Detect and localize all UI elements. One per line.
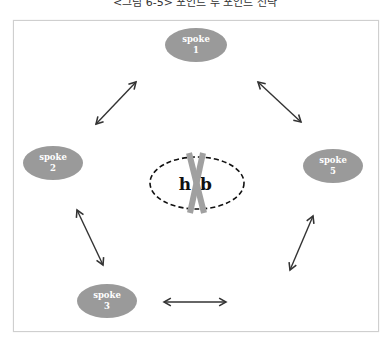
- spoke-5-number: 5: [330, 166, 336, 176]
- spoke-1-number: 1: [193, 45, 199, 55]
- spoke-node-1: spoke 1: [165, 28, 227, 62]
- spoke-3-word: spoke: [93, 290, 121, 300]
- spoke-node-5: spoke 5: [303, 149, 363, 183]
- arrow-spoke5-spoke4: [290, 216, 313, 270]
- spoke-2-word: spoke: [39, 152, 67, 162]
- spoke-1-word: spoke: [182, 34, 210, 44]
- hub-label-h: h: [179, 174, 191, 194]
- arrow-spoke1-spoke5: [258, 82, 301, 122]
- hub-node: h b: [150, 153, 244, 213]
- spoke-node-3: spoke 3: [77, 284, 137, 318]
- arrow-spoke1-spoke2: [96, 82, 136, 124]
- spoke-3-number: 3: [104, 301, 110, 311]
- spoke-5-word: spoke: [319, 155, 347, 165]
- point-to-point-diagram: spoke 1 spoke 2 spoke 5 spoke 3 h b: [0, 0, 390, 346]
- spoke-2-number: 2: [50, 163, 56, 173]
- hub-label-b: b: [200, 174, 212, 194]
- arrow-spoke2-spoke3: [77, 210, 103, 265]
- spoke-node-2: spoke 2: [23, 146, 83, 180]
